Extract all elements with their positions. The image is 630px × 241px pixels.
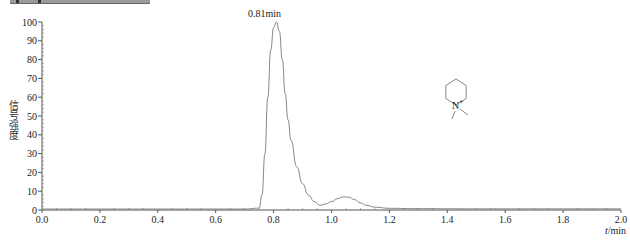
methyl-bond-icon: [460, 109, 468, 115]
x-tick-label: 1.0: [325, 214, 338, 225]
y-tick-label: 70: [27, 73, 37, 84]
y-tick-label: 20: [27, 167, 37, 178]
y-tick-label: 60: [27, 92, 37, 103]
chromatogram-trace: [42, 22, 621, 209]
methyl-bond-icon: [452, 111, 455, 119]
x-tick-label: 1.6: [499, 214, 512, 225]
y-tick-label: 50: [27, 111, 37, 122]
x-tick-label: 0.0: [36, 214, 49, 225]
x-tick-label: 0.2: [94, 214, 107, 225]
peak-annotation: 0.81min: [248, 8, 281, 19]
y-axis-label: 信号强度: [6, 100, 18, 140]
x-tick-label: 1.2: [383, 214, 396, 225]
x-tick-label: 1.8: [557, 214, 570, 225]
charge-label: +: [459, 97, 464, 106]
x-tick-label: 0.6: [209, 214, 222, 225]
x-tick-label: 0.4: [152, 214, 165, 225]
y-tick-label: 10: [27, 186, 37, 197]
y-tick-label: 40: [27, 129, 37, 140]
x-axis-label: t/min: [605, 225, 626, 236]
y-tick-label: 90: [27, 35, 37, 46]
y-tick-label: 30: [27, 148, 37, 159]
y-tick-label: 100: [22, 17, 37, 28]
x-tick-label: 1.4: [441, 214, 454, 225]
x-tick-label: 2.0: [615, 214, 628, 225]
x-tick-label: 0.8: [267, 214, 280, 225]
x-axis-unit: /min: [608, 225, 626, 236]
y-tick-label: 80: [27, 54, 37, 65]
chromatogram-chart: 01020304050607080901000.00.20.40.60.81.0…: [0, 0, 630, 241]
